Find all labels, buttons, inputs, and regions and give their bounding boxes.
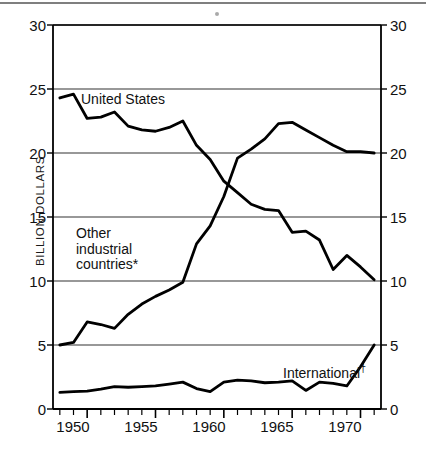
x-tick-label-1970: 1970: [315, 418, 375, 435]
y-tick-label-right-25: 25: [390, 81, 424, 98]
series-label-international: International†: [283, 362, 366, 381]
x-tick-label-1955: 1955: [111, 418, 171, 435]
series-label-other-line-2: industrial: [76, 242, 138, 258]
y-tick-label-left-30: 30: [8, 17, 46, 34]
y-tick-label-left-15: 15: [8, 209, 46, 226]
series-label-international-text: International: [283, 365, 360, 381]
chart-figure: BILLION DOLLARS 30 25 20 15 10 5 0 30 25…: [0, 0, 426, 452]
y-tick-label-right-30: 30: [390, 17, 424, 34]
series-label-united-states: United States: [81, 92, 165, 108]
y-tick-label-right-10: 10: [390, 273, 424, 290]
y-tick-label-left-20: 20: [8, 145, 46, 162]
dagger-marker: †: [360, 362, 366, 374]
series-label-other-line-1: Other: [76, 226, 138, 242]
series-label-other-line-3: countries*: [76, 257, 138, 273]
x-tick-label-1950: 1950: [43, 418, 103, 435]
y-tick-label-left-10: 10: [8, 273, 46, 290]
y-tick-label-right-0: 0: [390, 401, 424, 418]
y-tick-label-right-5: 5: [390, 337, 424, 354]
x-tick-label-1960: 1960: [179, 418, 239, 435]
gridlines: [53, 25, 381, 345]
x-tick-label-1965: 1965: [247, 418, 307, 435]
y-tick-label-right-15: 15: [390, 209, 424, 226]
y-tick-label-left-25: 25: [8, 81, 46, 98]
y-tick-label-left-0: 0: [8, 401, 46, 418]
series-label-other-industrial-countries: Other industrial countries*: [76, 226, 138, 273]
y-tick-label-right-20: 20: [390, 145, 424, 162]
x-axis-ticks: [60, 409, 374, 418]
plot-area: [0, 0, 426, 452]
scan-speck: [215, 12, 219, 16]
y-tick-label-left-5: 5: [8, 337, 46, 354]
